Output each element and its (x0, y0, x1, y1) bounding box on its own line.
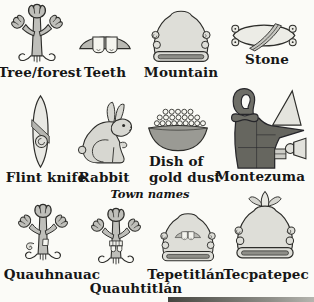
mountain-with-teeth-glyph-icon (156, 210, 220, 262)
rabbit-glyph-icon (70, 100, 138, 166)
teeth-glyph-icon (77, 27, 133, 59)
aztec-glyph-figure: Tree/forest Teeth Mountain Stone Flint k… (0, 0, 314, 302)
tree-glyph-icon (9, 3, 65, 63)
label-stone: Stone (228, 52, 306, 67)
dish-of-gold-dust-glyph-icon (146, 105, 210, 153)
tree-with-teeth-glyph-icon (89, 207, 143, 265)
label-tecpatepec: Tecpatepec (222, 267, 310, 282)
label-tree-forest: Tree/forest (0, 65, 82, 80)
label-montezuma: Montezuma (212, 169, 308, 184)
label-mountain: Mountain (138, 65, 224, 80)
label-dish-line1: Dish of (149, 153, 219, 169)
montezuma-crown-glyph-icon (215, 86, 307, 170)
label-quauhtitlan: Quauhtitlán (80, 281, 192, 296)
label-rabbit: Rabbit (72, 170, 136, 185)
label-dish-line2: gold dust (149, 169, 219, 185)
label-tepetitlan: Tepetitlán (146, 267, 226, 282)
adjacent-figure-edge (168, 297, 314, 302)
mountain-with-flint-glyph-icon (230, 190, 300, 262)
label-teeth: Teeth (76, 65, 134, 80)
label-quauhnauac: Quauhnauac (2, 267, 102, 282)
town-names-header: Town names (90, 187, 210, 201)
flint-knife-glyph-icon (24, 94, 57, 169)
stone-glyph-icon (226, 15, 302, 56)
tree-with-speech-scroll-glyph-icon (16, 203, 70, 261)
label-dish-of-gold-dust: Dish of gold dust (149, 153, 219, 185)
mountain-glyph-icon (147, 7, 215, 63)
